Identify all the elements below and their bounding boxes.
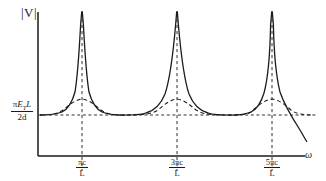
- resonance-plot-figure: |V| ω πETL 2d πc L 3πc L 5πc L: [0, 0, 326, 181]
- plot-canvas: [0, 0, 326, 181]
- solid-resonance-curve: [40, 12, 307, 142]
- y-tick-denominator: 2d: [11, 112, 34, 122]
- x-tick-numerator-2: 5πc: [264, 158, 280, 168]
- x-tick-fraction-0: πc L: [76, 158, 88, 177]
- y-axis-title: |V|: [21, 6, 37, 19]
- x-tick-numerator-1: 3πc: [169, 158, 185, 168]
- x-axis-title: ω: [305, 150, 312, 160]
- y-tick-tail: L: [26, 99, 31, 109]
- x-tick-denominator-0: L: [76, 168, 88, 178]
- x-tick-numerator-0: πc: [76, 158, 88, 168]
- x-tick-denominator-1: L: [169, 168, 185, 178]
- x-tick-fraction-2: 5πc L: [264, 158, 280, 177]
- x-tick-label-2: 5πc L: [252, 158, 292, 177]
- dashed-broad-curve: [40, 99, 314, 115]
- x-tick-label-0: πc L: [62, 158, 102, 177]
- y-tick-numerator: πETL: [11, 100, 34, 112]
- x-tick-fraction-1: 3πc L: [169, 158, 185, 177]
- x-tick-label-1: 3πc L: [157, 158, 197, 177]
- y-tick-label-0: πETL 2d: [7, 100, 37, 122]
- x-tick-denominator-2: L: [264, 168, 280, 178]
- y-tick-fraction: πETL 2d: [11, 100, 34, 122]
